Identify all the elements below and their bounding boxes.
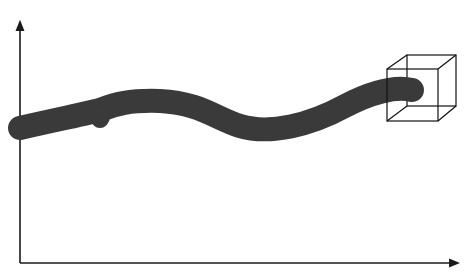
tube-bulge bbox=[90, 104, 110, 128]
tube-curve bbox=[20, 89, 412, 129]
diagram-canvas bbox=[0, 0, 476, 276]
